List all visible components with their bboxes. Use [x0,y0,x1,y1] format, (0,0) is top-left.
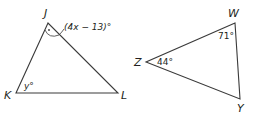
triangle-wzy: W Z Y 71° 44° [133,7,245,115]
angle-j-label: (4x − 13)° [64,22,111,32]
vertex-label-l: L [121,89,127,102]
angle-j-dot [48,29,50,31]
vertex-label-j: J [42,7,47,20]
angle-z-label: 44° [157,57,173,67]
vertex-label-w: W [228,7,240,20]
vertex-label-y: Y [237,102,245,115]
angle-w-label: 71° [218,31,234,41]
vertex-label-k: K [4,89,12,102]
triangles-figure: J K L (4x − 13)° y° W Z Y 71° 44° [0,0,253,119]
angle-j-arc [45,30,59,36]
triangle-jkl: J K L (4x − 13)° y° [4,7,127,102]
angle-k-label: y° [23,81,34,91]
vertex-label-z: Z [133,56,142,69]
